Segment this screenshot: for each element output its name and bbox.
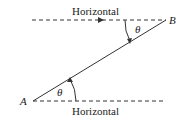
bottom-horizontal-label: Horizontal: [72, 105, 119, 117]
point-a-label: A: [19, 95, 27, 107]
bottom-angle-label: θ: [57, 86, 63, 98]
top-horizontal-label: Horizontal: [72, 5, 119, 17]
top-angle-label: θ: [135, 23, 141, 35]
top-line-arrow-icon: [98, 17, 104, 23]
top-angle-arc: [125, 20, 130, 41]
angle-diagram: Horizontal Horizontal A B θ θ: [0, 0, 185, 120]
line-ab: [33, 20, 166, 101]
bottom-angle-arc: [70, 79, 76, 101]
point-b-label: B: [169, 14, 176, 26]
